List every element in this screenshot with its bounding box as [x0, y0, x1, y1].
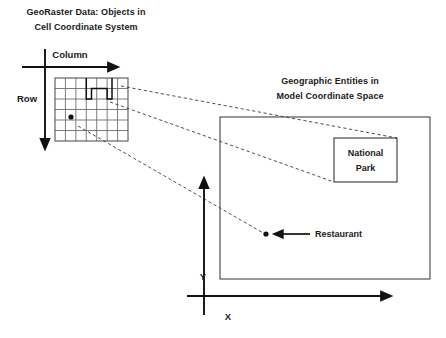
restaurant-annotation: Restaurant: [263, 229, 362, 239]
row-axis: Row: [17, 49, 45, 140]
projection-line-restaurant: [78, 126, 265, 234]
restaurant-cell-dot: [68, 114, 73, 119]
georaster-model-space-diagram: GeoRaster Data: Objects in Cell Coordina…: [0, 0, 446, 338]
model-x-axis-label: X: [225, 311, 232, 322]
national-park-box: National Park: [334, 138, 397, 182]
national-park-label-line-2: Park: [356, 163, 377, 173]
column-axis: Column: [22, 49, 109, 67]
right-title-line-1: Geographic Entities in: [281, 76, 379, 86]
row-axis-label: Row: [17, 93, 38, 104]
column-axis-label: Column: [52, 49, 88, 60]
national-park-rect: [334, 138, 397, 182]
left-title-line-1: GeoRaster Data: Objects in: [26, 7, 145, 17]
raster-grid: [55, 78, 128, 141]
model-y-axis-label: Y: [200, 271, 207, 282]
restaurant-dot: [263, 231, 268, 236]
national-park-label-line-1: National: [348, 148, 384, 158]
model-space-rect: [220, 117, 430, 279]
diagram-canvas: GeoRaster Data: Objects in Cell Coordina…: [0, 0, 446, 338]
left-title-line-2: Cell Coordinate System: [34, 22, 137, 32]
restaurant-label: Restaurant: [315, 229, 362, 239]
projection-line-park-bottom: [110, 102, 334, 182]
model-x-axis: X: [187, 296, 382, 322]
right-title-line-2: Model Coordinate Space: [276, 91, 383, 101]
